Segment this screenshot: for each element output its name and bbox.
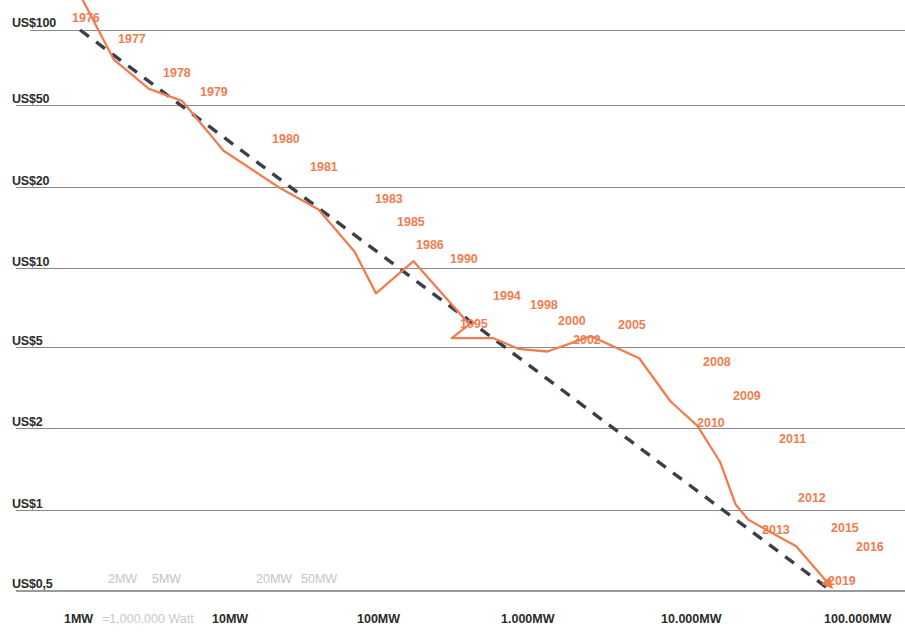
year-label-1978: 1978 <box>163 66 191 80</box>
year-label-2012: 2012 <box>798 491 826 505</box>
plot-area <box>0 0 905 639</box>
year-label-1979: 1979 <box>200 85 228 99</box>
year-label-2013: 2013 <box>762 523 790 537</box>
year-label-1985: 1985 <box>397 215 425 229</box>
year-label-1995: 1995 <box>460 317 488 331</box>
price-learning-curve-chart: US$100 US$50 US$20 US$10 US$5 US$2 US$1 … <box>0 0 905 639</box>
year-label-1976: 1976 <box>72 11 100 25</box>
year-label-2015: 2015 <box>831 521 859 535</box>
year-label-2016: 2016 <box>856 540 884 554</box>
year-label-2005: 2005 <box>618 318 646 332</box>
year-label-1990: 1990 <box>450 252 478 266</box>
year-label-1980: 1980 <box>272 132 300 146</box>
year-label-1986: 1986 <box>416 238 444 252</box>
year-label-1998: 1998 <box>530 298 558 312</box>
year-label-2002: 2002 <box>573 333 601 347</box>
year-label-1994: 1994 <box>493 289 521 303</box>
year-label-2009: 2009 <box>733 389 761 403</box>
price-per-watt-line <box>68 0 830 586</box>
year-label-2010: 2010 <box>697 416 725 430</box>
year-label-2019: 2019 <box>828 574 856 588</box>
year-label-2000: 2000 <box>558 314 586 328</box>
year-label-2008: 2008 <box>703 355 731 369</box>
year-label-2011: 2011 <box>779 432 806 446</box>
year-label-1981: 1981 <box>310 160 338 174</box>
year-label-1977: 1977 <box>118 32 146 46</box>
year-label-1983: 1983 <box>375 192 403 206</box>
